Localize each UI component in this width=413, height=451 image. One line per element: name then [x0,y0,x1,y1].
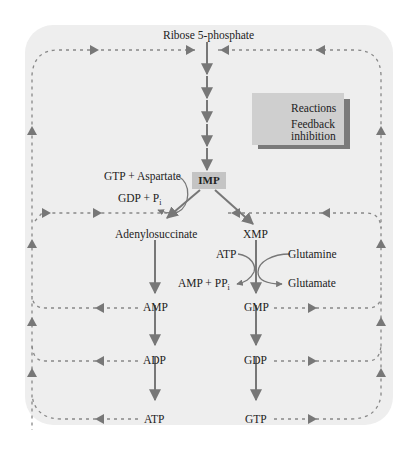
pathway-arrows [0,0,413,451]
legend: Reactions Feedback inhibition [252,93,344,145]
legend-inhibition-label: inhibition [291,130,336,143]
node-gmp: GMP [244,301,269,314]
node-atp: ATP [144,413,164,426]
product-amp-ppi: AMP + PPi [178,277,230,294]
node-gdp: GDP [244,354,267,367]
node-xmp: XMP [243,228,268,241]
node-gtp: GTP [245,413,267,426]
node-ribose-5-phosphate: Ribose 5-phosphate [163,29,254,42]
node-adenylosuccinate: Adenylosuccinate [115,228,197,241]
node-adp: ADP [143,354,166,367]
reaction-arrows-top [155,42,256,400]
node-amp: AMP [143,301,168,314]
reactant-gtp-aspartate: GTP + Aspartate [104,170,181,183]
legend-reactions-label: Reactions [291,102,336,115]
reactant-atp: ATP [216,248,236,261]
node-imp: IMP [192,172,226,189]
product-gdp-pi: GDP + Pi [118,192,161,209]
reactant-glutamine: Glutamine [288,248,337,261]
product-glutamate: Glutamate [288,277,336,290]
